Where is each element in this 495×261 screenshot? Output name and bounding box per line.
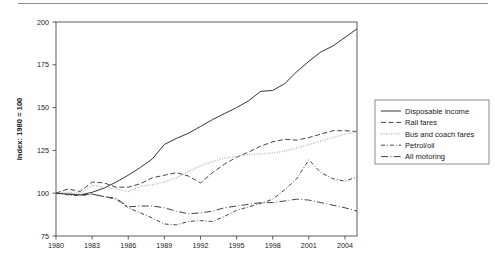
y-tick-label: 150 (37, 103, 49, 112)
axis-tickmarks (53, 22, 345, 240)
x-tick-label: 1992 (192, 241, 208, 250)
y-tick-label: 100 (37, 189, 49, 198)
y-tick-label: 75 (41, 232, 49, 241)
x-tick-label: 1983 (84, 241, 100, 250)
x-tick-label: 1995 (229, 241, 245, 250)
x-tick-label: 1986 (120, 241, 136, 250)
x-tick-label: 2001 (301, 241, 317, 250)
line-chart-svg: 75100125150175200 1980198319861989199219… (0, 0, 495, 261)
series-line-petrol-oil (56, 160, 357, 225)
x-tick-label: 2004 (337, 241, 353, 250)
x-tick-label: 1980 (48, 241, 64, 250)
legend-label: Petrol/oil (405, 141, 435, 150)
legend-label: Bus and coach fares (405, 130, 474, 139)
x-tick-label: 1989 (156, 241, 172, 250)
x-axis-tick-labels: 198019831986198919921995199820012004 (48, 241, 353, 250)
y-tick-label: 175 (37, 60, 49, 69)
plot-frame-border (56, 22, 357, 236)
legend-label: Disposable income (405, 107, 469, 116)
legend-label: All motoring (405, 152, 445, 161)
y-axis-tick-labels: 75100125150175200 (37, 18, 49, 241)
legend-label: Rail fares (405, 118, 437, 127)
chart-plot-area: 75100125150175200 1980198319861989199219… (0, 0, 495, 261)
series-line-rail-fares (56, 131, 357, 193)
chart-legend: Disposable incomeRail faresBus and coach… (375, 100, 489, 164)
x-tick-label: 1998 (265, 241, 281, 250)
y-tick-label: 200 (37, 18, 49, 27)
data-series-group (56, 29, 357, 225)
y-tick-label: 125 (37, 146, 49, 155)
y-axis-title: Index: 1980 = 100 (15, 98, 24, 161)
series-line-disposable-income (56, 29, 357, 195)
figure-container: 75100125150175200 1980198319861989199219… (0, 0, 495, 261)
